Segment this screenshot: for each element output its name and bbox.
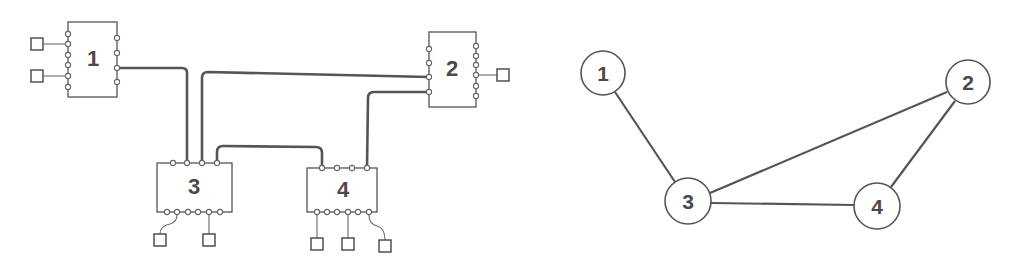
terminal-4a — [311, 238, 323, 250]
block-3-label: 3 — [188, 174, 200, 199]
wire-3-to-4 — [217, 146, 322, 168]
graph-node-2-label: 2 — [962, 71, 974, 94]
edge-1-3 — [615, 92, 675, 182]
terminal-4c — [379, 240, 391, 252]
edge-3-4 — [711, 203, 854, 205]
graph-node-3-label: 3 — [682, 190, 694, 213]
graph-node-1[interactable]: 1 — [581, 51, 625, 95]
terminal-1b — [31, 70, 43, 82]
block-4-label: 4 — [337, 177, 350, 202]
wiring-panel: 1 2 — [31, 22, 509, 252]
graph-node-4[interactable]: 4 — [854, 183, 900, 229]
terminal-3a — [154, 234, 166, 246]
edge-4-2 — [891, 101, 955, 187]
terminal-1a — [31, 38, 43, 50]
graph-panel: 1 2 3 4 — [581, 51, 990, 229]
network-diagram: 1 2 — [0, 0, 1018, 275]
block-2[interactable]: 2 — [426, 32, 478, 107]
terminal-4b — [342, 238, 354, 250]
terminal-2a — [497, 69, 509, 81]
wire-2-to-3 — [202, 72, 429, 163]
wire-2-to-4 — [367, 92, 429, 168]
block-2-label: 2 — [446, 56, 458, 81]
edge-3-2 — [710, 92, 947, 193]
block-1-label: 1 — [87, 46, 99, 71]
block-4[interactable]: 4 — [307, 165, 377, 214]
graph-node-3[interactable]: 3 — [665, 178, 711, 224]
graph-node-1-label: 1 — [597, 62, 609, 85]
graph-node-4-label: 4 — [871, 195, 883, 218]
graph-node-2[interactable]: 2 — [946, 60, 990, 104]
wire-1-to-3 — [117, 68, 187, 163]
block-1[interactable]: 1 — [65, 22, 119, 97]
terminal-3b — [203, 234, 215, 246]
block-3[interactable]: 3 — [157, 160, 232, 214]
